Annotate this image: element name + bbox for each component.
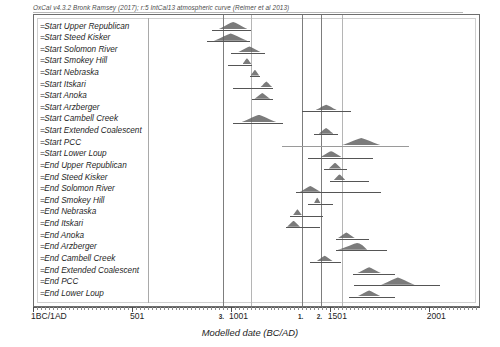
axis-tick <box>160 307 161 310</box>
range-bar <box>233 123 284 124</box>
axis-tick <box>211 307 212 310</box>
probability-distribution <box>287 221 300 227</box>
axis-tick <box>235 307 236 310</box>
axis-tick <box>282 307 283 310</box>
axis-tick <box>156 307 157 310</box>
axis-tick <box>350 307 351 310</box>
distribution-fill <box>293 209 302 215</box>
axis-tick <box>274 307 275 310</box>
axis-marker-label: 3. <box>219 313 224 320</box>
probability-distribution <box>254 93 270 99</box>
axis-tick <box>433 307 434 310</box>
probability-distribution <box>319 128 334 134</box>
row-label: =End Lower Loup <box>40 288 104 300</box>
axis-tick <box>108 307 109 310</box>
axis-tick <box>381 307 382 310</box>
distribution-fill <box>357 267 381 273</box>
axis-tick <box>120 307 121 310</box>
axis-tick <box>124 307 125 310</box>
axis-tick <box>457 307 458 310</box>
axis-tick <box>41 307 42 310</box>
axis-tick <box>179 307 180 310</box>
distribution-row: =End Nebraska <box>37 206 476 218</box>
row-label: =Start Cambell Creek <box>40 113 118 125</box>
row-label: =End Anoka <box>40 230 84 242</box>
probability-distribution <box>314 197 321 203</box>
probability-distribution <box>315 104 338 110</box>
row-label: =End Nebraska <box>40 206 96 218</box>
range-bar <box>336 250 387 251</box>
distribution-fill <box>315 104 338 110</box>
probability-distribution <box>357 290 381 296</box>
axis-tick <box>322 307 323 310</box>
distribution-row: =End Arzberger <box>37 241 476 253</box>
axis-tick <box>310 307 311 310</box>
distribution-row: =End Steed Kisker <box>37 172 476 184</box>
axis-tick <box>413 307 414 310</box>
distribution-fill <box>334 174 346 180</box>
axis-tick <box>397 307 398 310</box>
range-bar <box>324 169 348 170</box>
probability-distribution <box>238 46 262 52</box>
axis-tick <box>203 307 204 310</box>
distribution-row: =End Solomon River <box>37 183 476 195</box>
distribution-fill <box>381 277 415 285</box>
range-bar <box>353 274 395 275</box>
distribution-row: =Start PCC <box>37 137 476 149</box>
row-label: =Start Extended Coalescent <box>40 125 142 137</box>
row-label: =End Smokey Hill <box>40 195 104 207</box>
distribution-row: =End PCC <box>37 276 476 288</box>
distribution-fill <box>260 81 272 87</box>
x-axis-ticks <box>33 307 480 312</box>
axis-tick <box>267 307 268 310</box>
axis-tick <box>251 307 252 310</box>
axis-tick <box>389 307 390 310</box>
axis-tick <box>314 307 315 310</box>
axis-tick <box>176 307 177 310</box>
row-label: =End PCC <box>40 276 78 288</box>
axis-tick <box>164 307 165 310</box>
range-bar <box>252 99 274 100</box>
probability-distribution <box>338 242 368 250</box>
x-axis-title: Modelled date (BC/AD) <box>0 327 500 338</box>
range-bar <box>228 65 253 66</box>
axis-tick <box>247 307 248 310</box>
range-bar <box>310 262 342 263</box>
range-bar <box>314 134 339 135</box>
axis-tick <box>65 307 66 310</box>
range-bar <box>336 239 370 240</box>
axis-marker-label: 1. <box>298 313 303 320</box>
axis-tick <box>53 307 54 310</box>
axis-tick <box>460 307 461 310</box>
axis-tick <box>100 307 101 310</box>
axis-tick <box>140 307 141 310</box>
distribution-fill <box>300 186 321 192</box>
axis-tick <box>144 307 145 310</box>
row-label: =Start Upper Republican <box>40 21 129 33</box>
axis-marker-label: 2. <box>317 313 322 320</box>
axis-tick <box>191 307 192 310</box>
axis-tick <box>116 307 117 310</box>
distribution-row: =Start Steed Kisker <box>37 32 476 44</box>
axis-tick <box>61 307 62 310</box>
axis-tick <box>286 307 287 310</box>
axis-tick <box>306 307 307 310</box>
probability-distribution <box>293 209 302 215</box>
axis-tick <box>338 307 339 310</box>
probability-distribution <box>338 232 356 238</box>
row-label: =End Itskari <box>40 218 83 230</box>
axis-tick <box>326 307 327 310</box>
axis-tick <box>69 307 70 310</box>
row-label: =End Cambell Creek <box>40 253 115 265</box>
axis-tick <box>239 307 240 310</box>
distribution-fill <box>242 115 277 123</box>
probability-distribution <box>357 267 381 273</box>
axis-tick <box>172 307 173 310</box>
distribution-row: =End Upper Republican <box>37 160 476 172</box>
range-bar <box>282 146 409 147</box>
distribution-fill <box>219 22 248 30</box>
axis-tick <box>223 307 224 310</box>
axis-tick <box>152 307 153 310</box>
axis-tick <box>259 307 260 310</box>
distribution-fill <box>251 70 260 76</box>
